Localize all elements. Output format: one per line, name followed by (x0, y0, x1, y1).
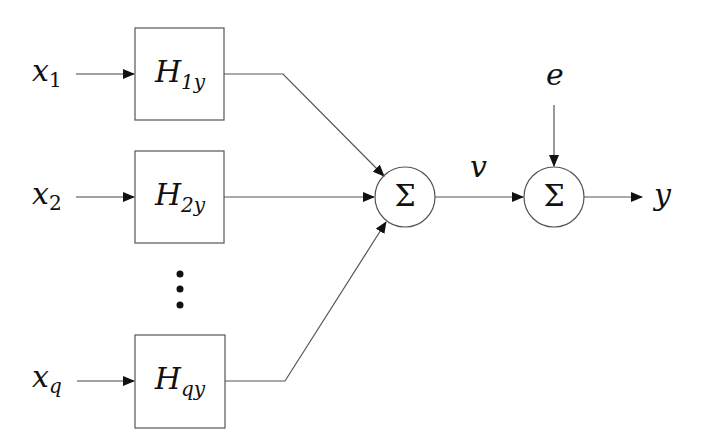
input-label-x1: x1 (32, 56, 62, 90)
block-label-h1y: H1y (135, 57, 225, 92)
summer-1-sigma: Σ (375, 181, 435, 211)
block-label-hqy: Hqy (135, 364, 225, 399)
input-label-x2: x2 (32, 179, 62, 213)
connector-hqy-sum (225, 222, 386, 381)
signal-label-v: v (470, 152, 487, 182)
signal-label-y: y (654, 180, 671, 210)
input-label-xq: xq (32, 362, 62, 396)
diagram-canvas (0, 0, 703, 448)
block-label-h2y: H2y (135, 180, 225, 215)
signal-label-e: e (546, 60, 564, 90)
connector-h1y-sum (224, 74, 384, 176)
ellipsis-dot (177, 302, 184, 309)
ellipsis-dot (177, 271, 184, 278)
ellipsis-dot (177, 286, 184, 293)
summer-2-sigma: Σ (524, 181, 584, 211)
